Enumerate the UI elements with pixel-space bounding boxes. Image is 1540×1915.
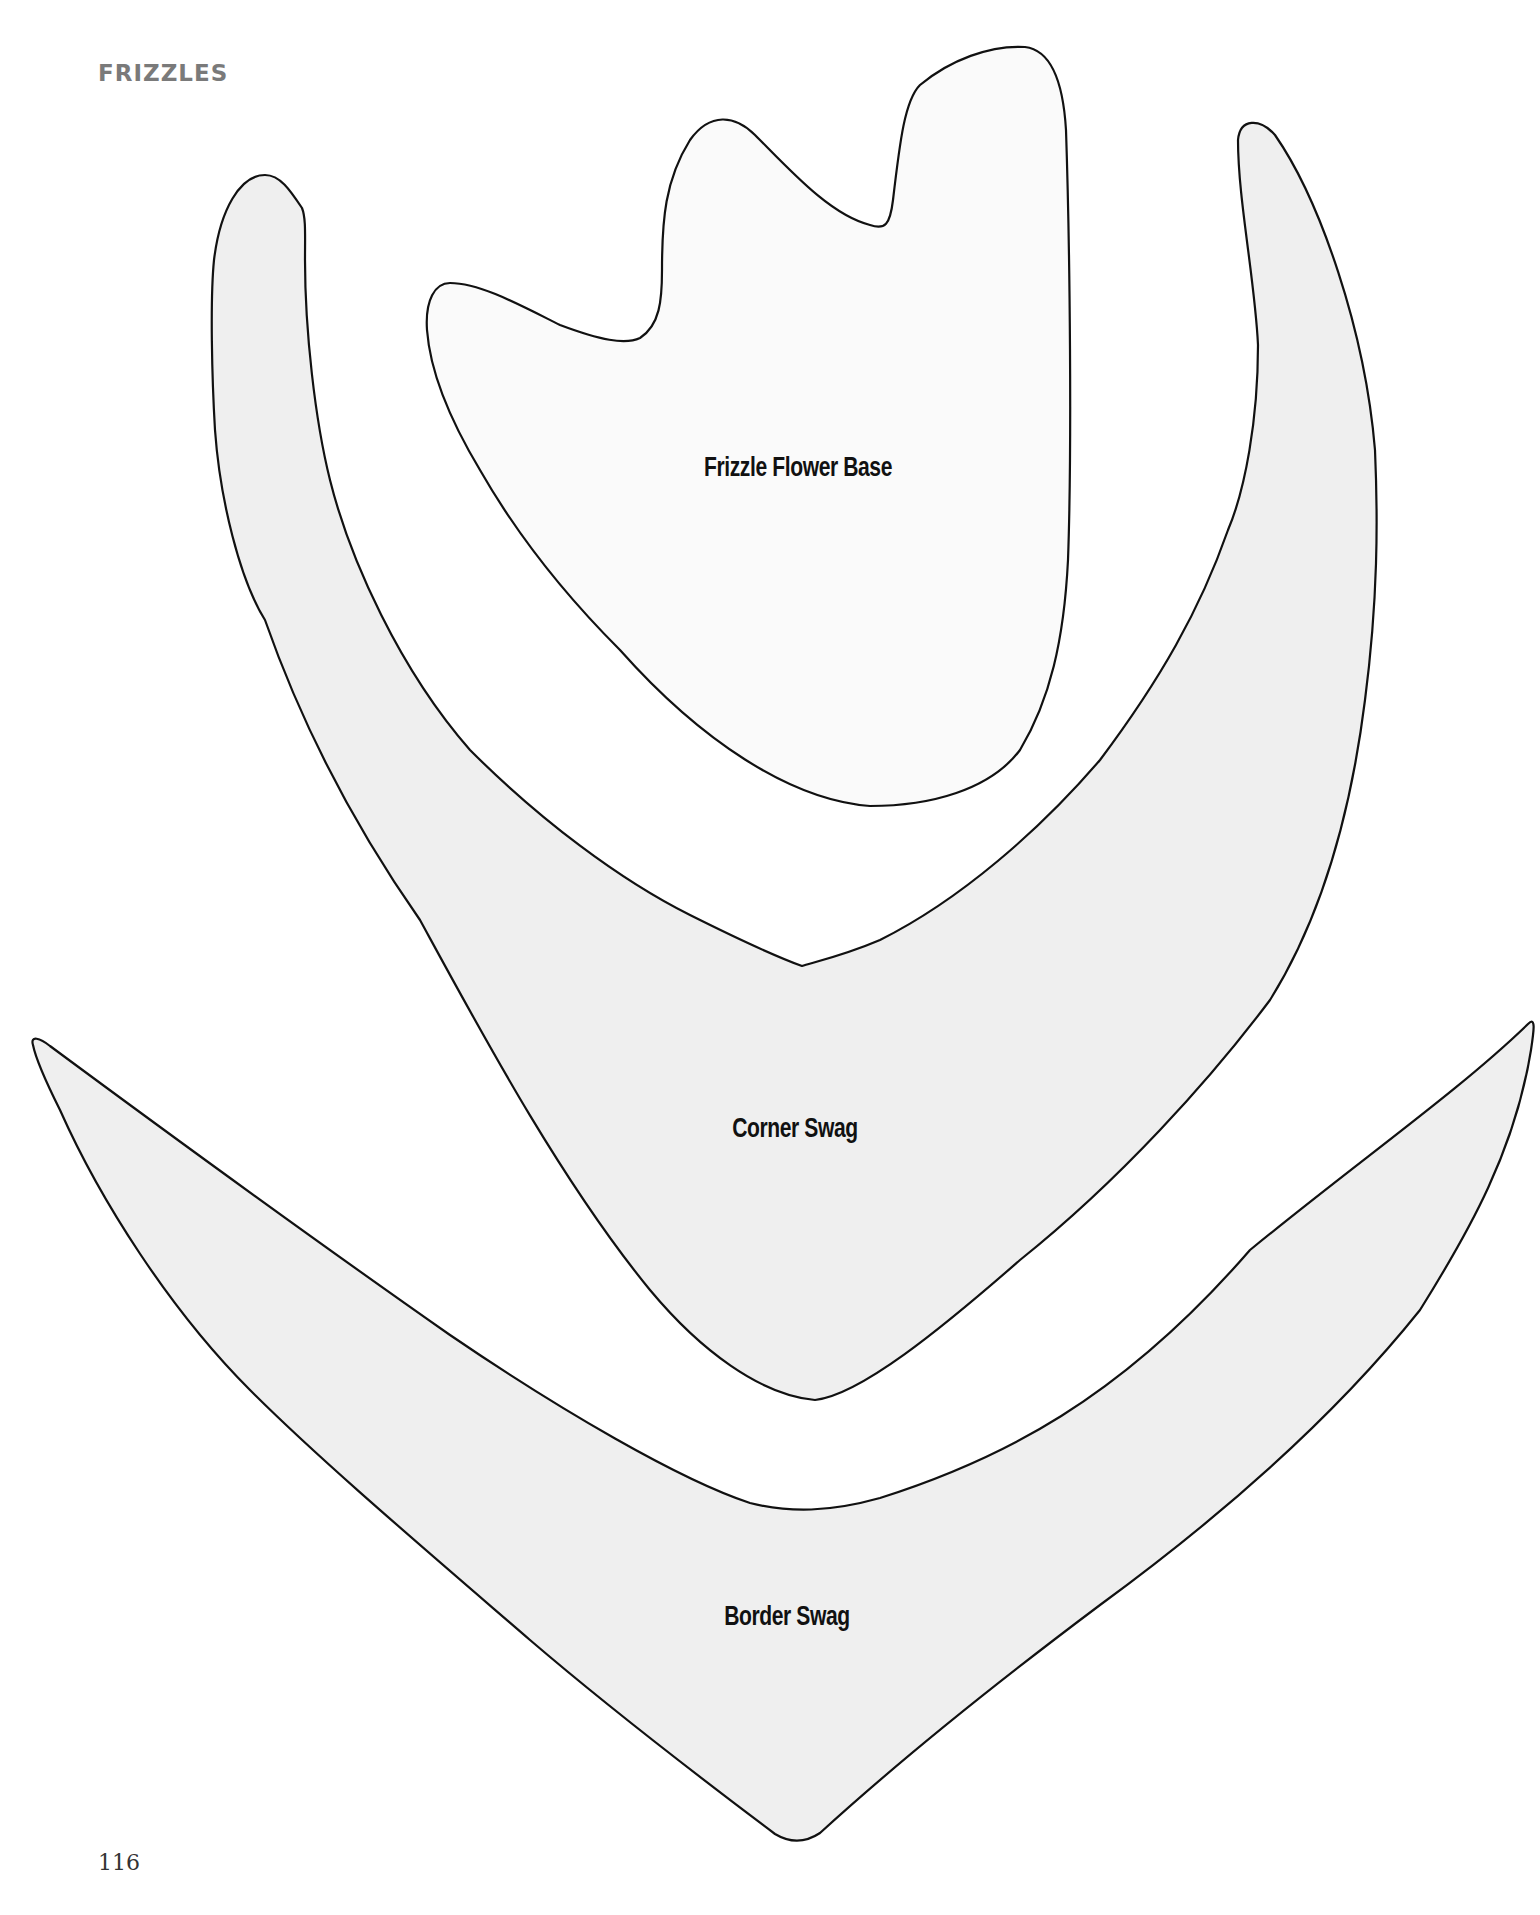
pattern-page: FRIZZLES Frizzle Flower Base Corner Swag… xyxy=(0,0,1540,1915)
border-swag-label: Border Swag xyxy=(706,1601,867,1632)
corner-swag-label: Corner Swag xyxy=(714,1113,875,1144)
frizzle-flower-base-shape xyxy=(427,47,1070,806)
page-number: 116 xyxy=(98,1850,140,1875)
frizzle-flower-base-label: Frizzle Flower Base xyxy=(677,452,918,483)
